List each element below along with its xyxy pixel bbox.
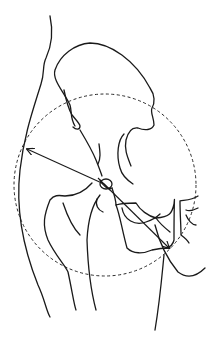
pubic-symphysis-left — [156, 199, 174, 248]
acetabulum-rim — [80, 130, 102, 176]
ilium — [55, 43, 155, 166]
ilium-inner-ridge — [64, 90, 80, 129]
femur-lateral — [44, 183, 92, 310]
radius-arrow-lower-right — [104, 184, 169, 248]
femur-medial — [87, 195, 100, 310]
body-outline-left — [19, 16, 52, 317]
femoral-neck — [112, 188, 170, 232]
femur-lesser-trochanter — [96, 199, 103, 212]
hip-joint-diagram — [0, 0, 219, 345]
acetabulum-notch — [98, 144, 100, 164]
radius-arrow-left — [27, 149, 104, 184]
femur-trochanter-ridge — [63, 203, 80, 235]
medial-thigh-line — [155, 255, 164, 330]
